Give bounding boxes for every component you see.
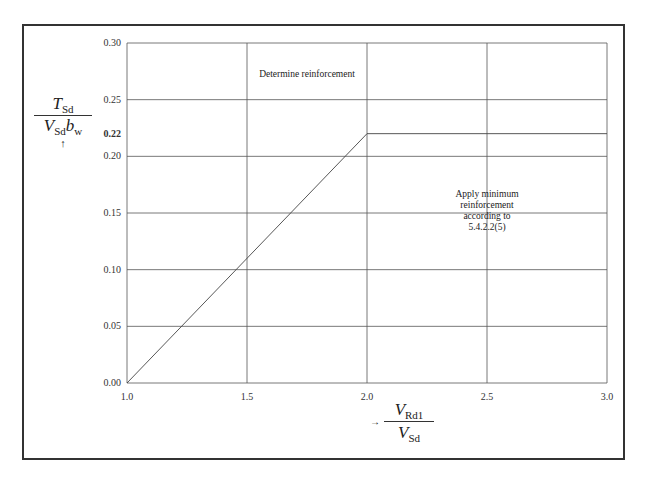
- right-arrow-icon: →: [370, 416, 380, 427]
- y-tick-label: 0.30: [104, 37, 122, 48]
- y-label-denominator: V: [44, 116, 54, 135]
- up-arrow-icon: ↑: [34, 137, 92, 149]
- y-label-den-sub: Sd: [54, 125, 66, 137]
- annotation-text: reinforcement: [460, 200, 514, 210]
- annotation-text: 5.4.2.2(5): [468, 222, 505, 233]
- y-tick-highlight: 0.22: [104, 128, 122, 139]
- x-tick-label: 1.5: [241, 391, 254, 402]
- y-axis-ticks: 0.000.050.100.150.200.250.300.22: [104, 37, 122, 388]
- x-label-num-sub: Rd1: [405, 409, 423, 421]
- x-label-numerator: V: [395, 400, 405, 419]
- y-axis-label: TSd VSdbw ↑: [34, 94, 92, 149]
- x-tick-label: 2.0: [361, 391, 374, 402]
- x-axis-ticks: 1.01.52.02.53.0: [121, 391, 614, 402]
- annotations: Determine reinforcementApply minimumrein…: [259, 69, 519, 233]
- y-tick-label: 0.20: [104, 150, 122, 161]
- x-tick-label: 3.0: [601, 391, 614, 402]
- annotation-text: according to: [463, 211, 510, 221]
- x-label-denominator: V: [398, 423, 408, 442]
- y-label-b: b: [66, 116, 75, 135]
- y-tick-label: 0.25: [104, 94, 122, 105]
- grid-lines: [127, 43, 607, 383]
- y-label-num-sub: Sd: [62, 103, 74, 115]
- y-tick-label: 0.10: [104, 264, 122, 275]
- y-tick-label: 0.00: [104, 377, 122, 388]
- x-label-den-sub: Sd: [408, 432, 420, 444]
- annotation-text: Determine reinforcement: [259, 69, 355, 79]
- y-tick-label: 0.05: [104, 320, 122, 331]
- x-tick-label: 1.0: [121, 391, 134, 402]
- y-label-b-sub: w: [74, 125, 82, 137]
- chart-plot: 0.000.050.100.150.200.250.300.22 1.01.52…: [0, 0, 645, 478]
- x-tick-label: 2.5: [481, 391, 494, 402]
- y-tick-label: 0.15: [104, 207, 122, 218]
- y-label-numerator: T: [52, 94, 61, 113]
- annotation-text: Apply minimum: [455, 189, 519, 199]
